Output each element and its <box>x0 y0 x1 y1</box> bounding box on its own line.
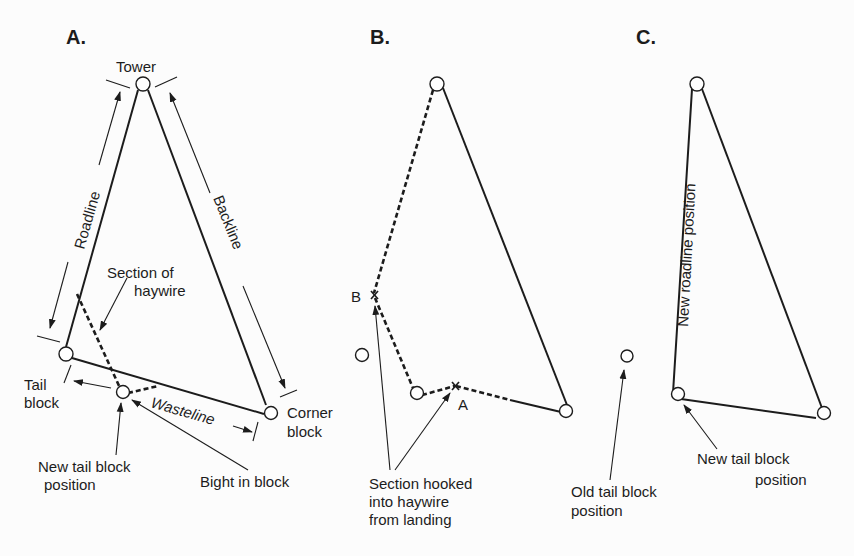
tower-block <box>136 77 150 91</box>
roadline-arrow-down <box>50 262 68 328</box>
new-tail-block <box>672 388 685 401</box>
corner-block <box>265 407 278 420</box>
corner-label: Corner <box>287 404 333 421</box>
point-b-label: B <box>351 288 361 305</box>
tick-mark <box>280 390 297 397</box>
bight-section <box>128 386 158 393</box>
tail-block <box>411 387 424 400</box>
new-tail-pointer <box>116 403 121 455</box>
old-tail-block <box>621 350 633 362</box>
new-tail-label-2: position <box>44 476 96 493</box>
haywire-pointer <box>100 278 127 330</box>
haywire-b-segment <box>375 298 413 388</box>
tail-label: Tail <box>24 376 47 393</box>
roadline-arrow-up <box>99 92 120 165</box>
tail-block-label: block <box>24 394 60 411</box>
wasteline-arrow-left <box>74 381 111 388</box>
haywire-label: haywire <box>134 282 186 299</box>
old-tail-label-1: Old tail block <box>571 483 657 500</box>
bight-label: Bight in block <box>200 473 290 490</box>
section-label-1: Section hooked <box>369 475 472 492</box>
panel-a: A. Tower Roa <box>24 26 333 493</box>
panel-c: C. New roadline position Old tail block … <box>571 26 831 519</box>
corner-block-label: block <box>287 423 323 440</box>
tick-mark <box>106 80 130 88</box>
tower-block <box>690 77 704 91</box>
new-tail-label-1: New tail block <box>697 450 790 467</box>
backline-arrow-down <box>243 286 285 388</box>
tick-mark <box>253 422 258 441</box>
tail-block <box>59 347 73 361</box>
section-label-2: into haywire <box>369 493 449 510</box>
tick-mark <box>155 77 177 87</box>
old-tail-label-2: position <box>571 502 623 519</box>
new-tail-label-1: New tail block <box>38 458 131 475</box>
new-roadline-label: New roadline position <box>674 183 698 327</box>
tick-mark <box>64 365 71 383</box>
haywire-section <box>77 294 120 388</box>
wasteline-rope <box>681 399 816 418</box>
section-a-pointer <box>395 393 450 470</box>
corner-block <box>818 407 831 420</box>
backline-arrow-up <box>170 93 210 193</box>
backline-rope <box>443 88 567 405</box>
new-tail-pointer <box>684 405 717 449</box>
old-tail-pointer <box>610 370 624 480</box>
wasteline-arrow-right <box>233 426 252 432</box>
backline-rope <box>702 89 822 408</box>
panel-b: B. B A Section hooked into <box>351 26 573 528</box>
roadline-label: Roadline <box>71 189 104 251</box>
section-of-label: Section of <box>107 264 175 281</box>
panel-b-heading: B. <box>370 26 390 48</box>
panel-c-heading: C. <box>636 26 656 48</box>
section-label-3: from landing <box>369 511 452 528</box>
roadline-rope <box>66 90 138 347</box>
tower-label: Tower <box>116 58 156 75</box>
tower-block <box>430 77 444 91</box>
backline-rope <box>148 90 266 405</box>
panel-a-heading: A. <box>66 26 86 48</box>
corner-block <box>560 405 573 418</box>
backline-label: Backline <box>210 193 247 252</box>
wasteline-label: Wasteline <box>149 394 217 428</box>
haywire-roadline-segment <box>374 90 433 293</box>
point-a-label: A <box>458 396 468 413</box>
old-tail-block <box>356 349 369 362</box>
cable-yarding-diagram: A. Tower Roa <box>0 0 854 556</box>
new-tail-label-2: position <box>755 471 807 488</box>
tick-mark <box>37 336 60 342</box>
wasteline-rope <box>510 400 561 412</box>
new-tail-block <box>117 386 130 399</box>
